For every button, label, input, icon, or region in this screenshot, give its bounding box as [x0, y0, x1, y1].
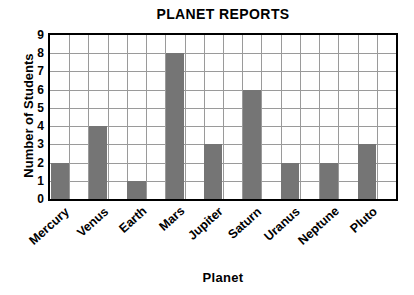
plot-area — [48, 33, 398, 201]
y-axis-tick-label: 5 — [28, 102, 44, 114]
bar-neptune — [320, 163, 338, 199]
x-axis-tick-label: Neptune — [296, 205, 342, 248]
x-axis-tick-label: Venus — [75, 205, 111, 239]
y-axis-tick-label: 9 — [28, 29, 44, 41]
bar-venus — [89, 126, 107, 199]
x-axis-title: Planet — [48, 270, 398, 285]
y-axis-tick-label: 3 — [28, 138, 44, 150]
y-axis-tick-label: 8 — [28, 47, 44, 59]
bar-chart-figure: PLANET REPORTS Number of Students 012345… — [0, 0, 414, 295]
chart-title: PLANET REPORTS — [48, 6, 398, 23]
x-axis-tick-label: Mercury — [27, 205, 72, 247]
bar-jupiter — [204, 144, 222, 199]
bars-layer — [50, 35, 396, 199]
y-axis-tick-label: 4 — [28, 120, 44, 132]
y-axis-tick-label: 7 — [28, 65, 44, 77]
x-axis-tick-label: Earth — [117, 205, 149, 236]
x-axis-tick-label: Saturn — [226, 205, 264, 241]
bar-earth — [127, 181, 145, 199]
x-axis-tick-label: Pluto — [348, 205, 380, 236]
y-axis-tick-labels: 0123456789 — [28, 26, 44, 206]
y-axis-tick-label: 6 — [28, 84, 44, 96]
bar-saturn — [243, 90, 261, 199]
bar-pluto — [358, 144, 376, 199]
y-axis-tick-label: 1 — [28, 175, 44, 187]
y-axis-tick-label: 2 — [28, 157, 44, 169]
x-axis-tick-label: Jupiter — [186, 205, 226, 243]
bar-mercury — [51, 163, 69, 199]
bar-mars — [166, 53, 184, 199]
x-axis-tick-labels: MercuryVenusEarthMarsJupiterSaturnUranus… — [48, 201, 398, 265]
y-axis-tick-label: 0 — [28, 193, 44, 205]
x-axis-tick-label: Mars — [157, 205, 187, 234]
bar-uranus — [281, 163, 299, 199]
